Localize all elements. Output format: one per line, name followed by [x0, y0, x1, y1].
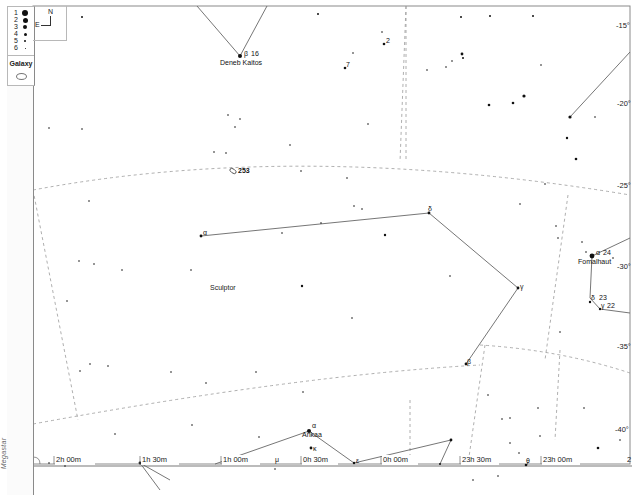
- svg-text:-40°: -40°: [615, 425, 629, 434]
- deneb-kaitos-name: Deneb Kaitos: [220, 59, 263, 66]
- scl-beta-label: β: [467, 358, 471, 366]
- compass-rose: N E: [33, 6, 67, 41]
- north-arrow-icon: [50, 16, 51, 25]
- chart-frame: [33, 6, 630, 464]
- star-dot-icon: [24, 40, 26, 42]
- ngc253-label[interactable]: 253: [238, 167, 250, 174]
- left-sidebar-strip: [7, 85, 34, 495]
- fomalhaut-flamsteed: 24: [603, 249, 611, 256]
- scl-alpha-label: α: [203, 229, 207, 236]
- legend-galaxy: Galaxy: [8, 55, 34, 86]
- scl-gamma-label: γ: [520, 283, 524, 291]
- psa-gamma-num: 22: [607, 302, 615, 309]
- svg-text:0h 00m: 0h 00m: [383, 455, 408, 464]
- svg-text:1h 00m: 1h 00m: [223, 455, 248, 464]
- svg-text:0h 30m: 0h 30m: [303, 455, 328, 464]
- deneb-kaitos-flamsteed: 16: [251, 50, 259, 57]
- star-dot-icon: [24, 33, 27, 36]
- magnitude-legend: 1 2 3 4 5 6 Galaxy: [7, 6, 35, 86]
- cetus-7-label: 7: [346, 61, 350, 68]
- phe-mu-label: μ: [275, 456, 279, 464]
- svg-text:-15°: -15°: [616, 21, 630, 30]
- legend-mag-6: 6: [8, 44, 34, 52]
- compass-north-label: N: [48, 8, 53, 15]
- svg-text:-30°: -30°: [617, 262, 631, 271]
- fomalhaut-name: Fomalhaut: [578, 258, 611, 265]
- psa-gamma-label: γ: [601, 302, 605, 310]
- svg-text:23h 00m: 23h 00m: [543, 455, 572, 464]
- svg-text:-25°: -25°: [617, 181, 631, 190]
- svg-text:23h 30m: 23h 30m: [462, 455, 491, 464]
- psa-delta-num: 23: [599, 294, 607, 301]
- svg-text:2h 00m: 2h 00m: [56, 455, 81, 464]
- scl-delta-label: δ: [428, 205, 432, 212]
- psa-delta-label: δ: [591, 294, 595, 301]
- cetus-2-label: 2: [386, 37, 390, 44]
- star-dot-icon: [23, 18, 28, 23]
- phe-epsilon-label: ε: [356, 457, 359, 464]
- svg-text:2: 2: [627, 455, 631, 464]
- star-dot-icon: [25, 48, 26, 49]
- constellation-sculptor: Sculptor: [210, 284, 236, 292]
- svg-text:-20°: -20°: [617, 99, 631, 108]
- east-arrow-icon: [41, 25, 51, 26]
- star-dot-icon: [23, 25, 27, 29]
- svg-text:-35°: -35°: [617, 342, 631, 351]
- phe-kappa-label: κ: [313, 445, 317, 452]
- compass-east-label: E: [35, 21, 40, 28]
- ankaa-name: Ankaa: [302, 431, 322, 438]
- gru-theta-label: θ: [526, 457, 530, 464]
- ankaa-greek: α: [312, 422, 316, 429]
- star-chart[interactable]: 253 β 16 Deneb Kaitos 7 2 α δ γ β α 24 F…: [0, 0, 639, 498]
- fomalhaut-greek: α: [596, 249, 600, 256]
- watermark: Megastar: [0, 438, 7, 470]
- galaxy-ellipse-icon: [16, 73, 27, 80]
- svg-text:1h 30m: 1h 30m: [142, 455, 167, 464]
- galaxy-label: Galaxy: [8, 60, 34, 67]
- deneb-kaitos-greek: β: [244, 50, 248, 58]
